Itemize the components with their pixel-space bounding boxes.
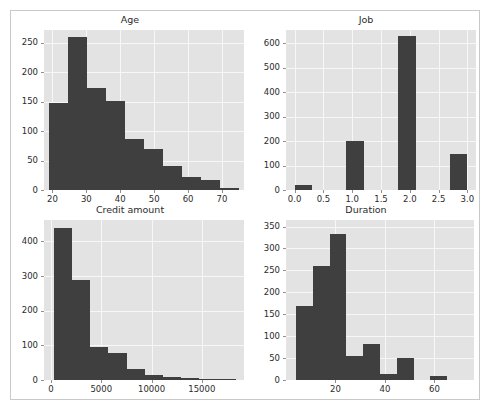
panel-job-plot-area <box>286 30 476 190</box>
histogram-bar <box>363 344 380 380</box>
y-axis-tick-mark <box>41 276 44 277</box>
x-axis-tick-mark <box>202 380 203 383</box>
y-axis-tick-mark <box>283 358 286 359</box>
y-axis-tick-label: 100 <box>14 127 38 136</box>
panel-duration-plot-area <box>286 220 474 380</box>
y-axis-tick-label: 100 <box>14 341 38 350</box>
x-axis-tick-mark <box>467 190 468 193</box>
histogram-bar <box>397 358 414 380</box>
y-axis-tick-label: 200 <box>252 137 280 146</box>
panel-credit-amount-title: Credit amount <box>14 204 246 216</box>
x-axis-tick-mark <box>295 190 296 193</box>
gridline-vertical <box>188 30 189 190</box>
x-axis-tick-label: 10000 <box>132 385 172 394</box>
x-axis-tick-mark <box>385 380 386 383</box>
y-axis-tick-mark <box>283 380 286 381</box>
y-axis-tick-label: 300 <box>252 244 280 253</box>
y-axis-tick-label: 200 <box>14 68 38 77</box>
histogram-bar <box>68 37 87 190</box>
gridline-vertical <box>385 220 386 380</box>
y-axis-tick-mark <box>283 68 286 69</box>
y-axis-tick-mark <box>283 92 286 93</box>
y-axis-tick-label: 200 <box>252 288 280 297</box>
gridline-vertical <box>295 30 296 190</box>
y-axis-tick-mark <box>41 311 44 312</box>
panel-credit-amount: Credit amount 01002003004000500010000150… <box>14 204 246 398</box>
gridline-vertical <box>439 30 440 190</box>
panel-job-title: Job <box>252 14 480 26</box>
x-axis-tick-mark <box>410 190 411 193</box>
y-axis-tick-mark <box>283 166 286 167</box>
histogram-bar <box>182 177 201 190</box>
histogram-bar <box>380 374 397 380</box>
x-axis-tick-mark <box>323 190 324 193</box>
y-axis-tick-mark <box>41 161 44 162</box>
gridline-vertical <box>222 30 223 190</box>
histogram-bar <box>87 88 106 190</box>
x-axis-tick-label: 20 <box>315 385 355 394</box>
panel-age-title: Age <box>14 14 246 26</box>
histogram-bar <box>144 149 163 190</box>
y-axis-tick-mark <box>41 345 44 346</box>
histogram-bar <box>72 280 90 380</box>
gridline-horizontal <box>44 276 244 277</box>
y-axis-tick-label: 0 <box>14 186 38 195</box>
x-axis-tick-mark <box>120 190 121 193</box>
x-axis-tick-mark <box>439 190 440 193</box>
histogram-bar <box>90 347 108 380</box>
y-axis-tick-label: 350 <box>252 222 280 231</box>
x-axis-tick-mark <box>222 190 223 193</box>
x-axis-tick-mark <box>335 380 336 383</box>
histogram-bar <box>346 356 363 380</box>
x-axis-tick-mark <box>152 380 153 383</box>
x-axis-tick-label: 60 <box>414 385 454 394</box>
y-axis-tick-mark <box>41 190 44 191</box>
gridline-vertical <box>467 30 468 190</box>
y-axis-tick-label: 150 <box>252 310 280 319</box>
y-axis-tick-label: 0 <box>252 186 280 195</box>
histogram-bar <box>163 166 182 190</box>
y-axis-tick-label: 500 <box>252 63 280 72</box>
y-axis-tick-mark <box>283 141 286 142</box>
x-axis-tick-mark <box>154 190 155 193</box>
x-axis-tick-label: 3.0 <box>447 195 487 204</box>
y-axis-tick-label: 100 <box>252 161 280 170</box>
y-axis-tick-mark <box>283 117 286 118</box>
x-axis-tick-mark <box>86 190 87 193</box>
histogram-figure: Age 050100150200250203040506070 Job 0100… <box>0 0 494 416</box>
histogram-bar <box>125 139 144 190</box>
y-axis-tick-label: 250 <box>14 38 38 47</box>
gridline-vertical <box>381 30 382 190</box>
y-axis-tick-mark <box>41 380 44 381</box>
histogram-bar <box>127 369 145 380</box>
histogram-bar <box>218 379 236 381</box>
y-axis-tick-label: 300 <box>14 272 38 281</box>
gridline-vertical <box>202 220 203 380</box>
y-axis-tick-mark <box>41 43 44 44</box>
y-axis-tick-mark <box>283 190 286 191</box>
gridline-horizontal <box>286 227 474 228</box>
histogram-bar <box>296 306 313 380</box>
gridline-vertical <box>51 220 52 380</box>
histogram-bar <box>330 234 347 380</box>
y-axis-tick-label: 50 <box>252 354 280 363</box>
x-axis-tick-mark <box>101 380 102 383</box>
panel-age-plot-area <box>44 30 244 190</box>
y-axis-tick-mark <box>283 227 286 228</box>
y-axis-tick-mark <box>283 43 286 44</box>
panel-job: Job 01002003004005006000.00.51.01.52.02.… <box>252 14 480 206</box>
x-axis-tick-label: 15000 <box>182 385 222 394</box>
histogram-bar <box>201 180 220 190</box>
x-axis-tick-mark <box>434 380 435 383</box>
y-axis-tick-mark <box>283 270 286 271</box>
histogram-bar <box>450 154 467 190</box>
y-axis-tick-label: 300 <box>252 112 280 121</box>
y-axis-tick-label: 50 <box>14 156 38 165</box>
x-axis-tick-label: 5000 <box>81 385 121 394</box>
histogram-bar <box>145 375 163 380</box>
histogram-bar <box>295 185 312 190</box>
gridline-vertical <box>434 220 435 380</box>
y-axis-tick-label: 600 <box>252 39 280 48</box>
y-axis-tick-mark <box>41 72 44 73</box>
x-axis-tick-mark <box>352 190 353 193</box>
